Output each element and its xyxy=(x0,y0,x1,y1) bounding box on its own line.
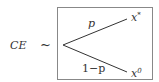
outcome-upper-sup: * xyxy=(137,11,141,19)
branch-prob-lower: 1−p xyxy=(82,63,105,74)
branch-prob-upper: p xyxy=(88,18,95,29)
outcome-lower: x0 xyxy=(131,66,142,79)
outcome-lower-sup: 0 xyxy=(137,67,141,75)
outcome-upper: x* xyxy=(131,10,141,23)
